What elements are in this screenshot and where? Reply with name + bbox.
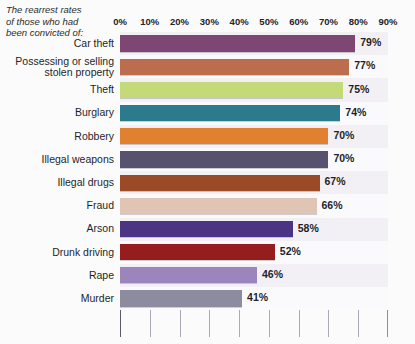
category-label-robbery: Robbery: [0, 125, 116, 148]
category-label-text: Murder: [81, 293, 114, 304]
bar-value-label: 67%: [325, 175, 346, 187]
category-labels: Car theftPossessing or sellingstolen pro…: [0, 32, 116, 310]
bar-rows: 79%77%75%74%70%70%67%66%58%52%46%41%: [120, 32, 388, 310]
x-axis-tick-labels: 0%10%20%30%40%50%60%70%80%90%: [120, 16, 388, 30]
x-tick-10: 10%: [140, 16, 159, 27]
bar-value-label: 58%: [298, 222, 319, 234]
x-tick-40: 40%: [230, 16, 249, 27]
category-label-text: Illegal drugs: [57, 177, 114, 188]
x-tick-60: 60%: [289, 16, 308, 27]
bar-value-label: 66%: [322, 199, 343, 211]
bar-row: 41%: [120, 287, 388, 310]
category-label-text: Robbery: [74, 131, 114, 142]
caption-line-1: of those who had: [6, 16, 118, 28]
bar-robbery[interactable]: [120, 128, 328, 144]
category-label-text: Rape: [89, 270, 114, 281]
category-label-murder: Murder: [0, 287, 116, 310]
category-label-burglary: Burglary: [0, 102, 116, 125]
rearrest-rates-bar-chart: The rearrest ratesof those who hadbeen c…: [0, 0, 415, 344]
category-label-text: Possessing or sellingstolen property: [15, 56, 114, 78]
bar-row: 77%: [120, 55, 388, 78]
bar-value-label: 41%: [247, 291, 268, 303]
bar-drunk-driving[interactable]: [120, 244, 275, 260]
bar-value-label: 75%: [348, 83, 369, 95]
bar-arson[interactable]: [120, 221, 293, 237]
bar-row: 67%: [120, 171, 388, 194]
x-tick-70: 70%: [319, 16, 338, 27]
category-label-text: Illegal weapons: [42, 154, 114, 165]
bar-theft[interactable]: [120, 82, 343, 98]
bar-illegal-drugs[interactable]: [120, 175, 320, 191]
bar-burglary[interactable]: [120, 105, 340, 121]
category-label-arson: Arson: [0, 218, 116, 241]
bar-possessing-or-selling-stolen-property[interactable]: [120, 59, 349, 75]
bar-value-label: 52%: [280, 245, 301, 257]
bar-row: 79%: [120, 32, 388, 55]
bar-row: 75%: [120, 78, 388, 101]
x-tick-80: 80%: [349, 16, 368, 27]
bar-row: 70%: [120, 148, 388, 171]
bar-row: 58%: [120, 218, 388, 241]
category-label-possessing-or-selling-stolen-property: Possessing or sellingstolen property: [0, 55, 116, 78]
category-label-illegal-weapons: Illegal weapons: [0, 148, 116, 171]
bar-rape[interactable]: [120, 267, 257, 283]
x-tick-90: 90%: [378, 16, 397, 27]
x-tick-0: 0%: [113, 16, 127, 27]
bar-murder[interactable]: [120, 290, 242, 306]
bar-value-label: 74%: [345, 106, 366, 118]
bar-illegal-weapons[interactable]: [120, 151, 328, 167]
bar-value-label: 79%: [360, 36, 381, 48]
category-label-text: Burglary: [75, 107, 114, 118]
plot-area: 79%77%75%74%70%70%67%66%58%52%46%41%: [120, 32, 388, 337]
bar-car-theft[interactable]: [120, 35, 355, 51]
category-label-car-theft: Car theft: [0, 32, 116, 55]
x-tick-20: 20%: [170, 16, 189, 27]
category-label-drunk-driving: Drunk driving: [0, 241, 116, 264]
x-tick-50: 50%: [259, 16, 278, 27]
category-label-rape: Rape: [0, 264, 116, 287]
category-label-fraud: Fraud: [0, 194, 116, 217]
bar-fraud[interactable]: [120, 198, 317, 214]
bar-value-label: 77%: [354, 59, 375, 71]
bar-value-label: 70%: [333, 129, 354, 141]
category-label-text: Car theft: [74, 38, 114, 49]
caption-line-0: The rearrest rates: [6, 4, 118, 16]
x-tick-30: 30%: [200, 16, 219, 27]
bar-value-label: 46%: [262, 268, 283, 280]
category-label-text: Fraud: [87, 200, 114, 211]
bar-value-label: 70%: [333, 152, 354, 164]
category-label-text: Drunk driving: [52, 247, 114, 258]
bar-row: 52%: [120, 241, 388, 264]
category-label-text: Arson: [87, 223, 114, 234]
category-label-illegal-drugs: Illegal drugs: [0, 171, 116, 194]
bar-row: 66%: [120, 194, 388, 217]
category-label-text: Theft: [90, 84, 114, 95]
category-label-theft: Theft: [0, 78, 116, 101]
bar-row: 74%: [120, 102, 388, 125]
bar-row: 70%: [120, 125, 388, 148]
bar-row: 46%: [120, 264, 388, 287]
